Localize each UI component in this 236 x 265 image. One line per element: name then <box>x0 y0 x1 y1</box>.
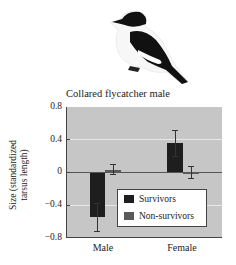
error-bar <box>97 203 98 231</box>
gridline <box>67 139 222 140</box>
legend: Survivors Non-survivors <box>117 189 207 227</box>
error-bar <box>191 166 192 178</box>
legend-label: Non-survivors <box>139 211 194 221</box>
y-ticks: 0.8 0.4 0 −0.4 −0.8 <box>34 0 64 265</box>
error-cap <box>94 203 100 204</box>
y-tick-label: −0.4 <box>34 199 62 209</box>
error-cap <box>172 130 178 131</box>
bird-illustration-icon <box>100 8 190 88</box>
error-cap <box>110 174 116 175</box>
y-tick-label: 0.8 <box>34 101 62 111</box>
x-tick-male: Male <box>73 242 133 253</box>
error-bar <box>113 164 114 174</box>
y-axis-label-line-1: Size (standardized <box>8 140 19 210</box>
x-tick-female: Female <box>152 242 212 253</box>
y-axis-label: Size (standardizedtarsus length) <box>4 120 34 230</box>
error-bar <box>175 130 176 156</box>
error-cap <box>188 166 194 167</box>
tick-mark <box>66 139 70 140</box>
y-axis-label-line-2: tarsus length) <box>19 140 30 210</box>
y-tick-label: −0.8 <box>34 232 62 242</box>
legend-item-non-survivors: Non-survivors <box>124 211 194 221</box>
error-cap <box>110 164 116 165</box>
legend-swatch <box>124 212 134 220</box>
y-tick-label: 0.4 <box>34 134 62 144</box>
legend-label: Survivors <box>139 194 176 204</box>
tick-mark <box>66 205 70 206</box>
y-tick-label: 0 <box>34 166 62 176</box>
error-cap <box>188 178 194 179</box>
error-cap <box>94 231 100 232</box>
error-cap <box>172 156 178 157</box>
legend-item-survivors: Survivors <box>124 194 176 204</box>
legend-swatch <box>124 195 134 203</box>
tick-mark <box>66 172 70 173</box>
